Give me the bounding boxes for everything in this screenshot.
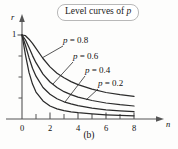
curve-annotation-p-06-value: = 0.6	[80, 51, 99, 61]
figure-caption: (b)	[0, 131, 178, 141]
x-axis-label: n	[166, 120, 170, 129]
figure-level-curves-of-p: Level curves of p r n 1 0 2 4 6 8 p = 0.…	[0, 0, 178, 149]
chart-title-box: Level curves of p	[57, 4, 139, 21]
chart-title-text: Level curves of	[65, 6, 124, 16]
y-tick-label-1: 1	[9, 30, 19, 39]
curve-annotation-p-02: p = 0.2	[98, 79, 123, 88]
curve-annotation-p-08-value: = 0.8	[70, 35, 89, 45]
curve-annotation-p-02-value: = 0.2	[105, 78, 124, 88]
curve-p-04	[22, 35, 134, 112]
leader-p-02	[86, 89, 98, 100]
curve-annotation-p-02-symbol: p	[98, 78, 103, 88]
curve-p-02	[22, 35, 134, 116]
curve-annotation-p-04: p = 0.4	[85, 66, 110, 75]
chart-title-symbol: p	[126, 6, 131, 16]
curve-annotation-p-06-symbol: p	[73, 51, 78, 61]
y-axis-label: r	[11, 13, 14, 22]
curve-annotation-p-04-value: = 0.4	[92, 65, 111, 75]
curve-annotation-p-04-symbol: p	[85, 65, 90, 75]
curve-annotation-p-08-symbol: p	[63, 35, 68, 45]
curve-annotation-p-08: p = 0.8	[63, 36, 88, 45]
curve-annotation-p-06: p = 0.6	[73, 52, 98, 61]
leader-p-08	[42, 46, 63, 58]
